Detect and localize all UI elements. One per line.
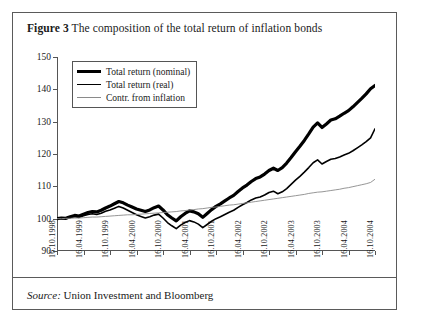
chart-plot-area: 90100110120130140150 16.10.199816.04.199… bbox=[57, 57, 375, 251]
figure-panel: Figure 3 The composition of the total re… bbox=[12, 12, 397, 310]
y-tick-label: 120 bbox=[37, 149, 51, 159]
x-tick bbox=[375, 251, 376, 255]
panel-divider bbox=[13, 277, 396, 278]
x-tick-label: 16.10.1998 bbox=[48, 220, 57, 258]
x-tick bbox=[296, 251, 297, 255]
x-tick bbox=[190, 251, 191, 255]
legend-label: Total return (nominal) bbox=[106, 67, 190, 77]
x-tick bbox=[84, 251, 85, 255]
legend-item: Total return (real) bbox=[77, 78, 190, 91]
legend-swatch-icon bbox=[77, 70, 101, 73]
y-tick-label: 110 bbox=[37, 181, 51, 191]
figure-title-text: The composition of the total return of i… bbox=[72, 22, 323, 34]
y-tick-label: 140 bbox=[37, 84, 51, 94]
series-line bbox=[57, 129, 375, 229]
series-line bbox=[57, 179, 375, 218]
x-tick bbox=[110, 251, 111, 255]
y-tick-label: 150 bbox=[37, 52, 51, 62]
x-tick bbox=[243, 251, 244, 255]
chart-legend: Total return (nominal)Total return (real… bbox=[72, 61, 197, 108]
source-line: Source: Union Investment and Bloomberg bbox=[27, 289, 213, 301]
legend-swatch-icon bbox=[77, 84, 101, 86]
legend-item: Contr. from inflation bbox=[77, 91, 190, 104]
x-tick bbox=[349, 251, 350, 255]
figure-title: Figure 3 The composition of the total re… bbox=[27, 22, 322, 34]
y-tick-label: 130 bbox=[37, 117, 51, 127]
figure-number: Figure 3 bbox=[27, 22, 69, 34]
source-text: Union Investment and Bloomberg bbox=[64, 289, 214, 301]
x-tick bbox=[216, 251, 217, 255]
legend-swatch-icon bbox=[77, 97, 101, 98]
source-label: Source: bbox=[27, 289, 61, 301]
x-tick bbox=[269, 251, 270, 255]
x-tick bbox=[57, 251, 58, 255]
x-tick bbox=[322, 251, 323, 255]
legend-item: Total return (nominal) bbox=[77, 65, 190, 78]
legend-label: Total return (real) bbox=[106, 80, 173, 90]
x-tick bbox=[163, 251, 164, 255]
legend-label: Contr. from inflation bbox=[106, 93, 185, 103]
x-tick bbox=[137, 251, 138, 255]
